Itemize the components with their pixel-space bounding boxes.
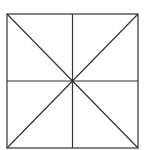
square-diagram: [0, 0, 146, 150]
